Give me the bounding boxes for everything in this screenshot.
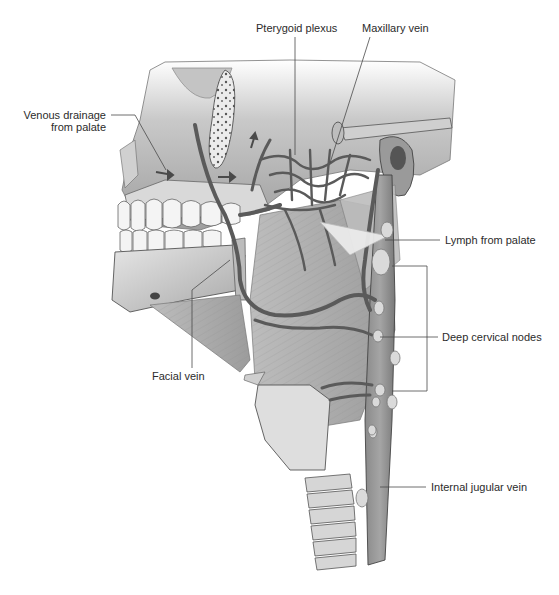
label-internal-jugular-vein: Internal jugular vein — [431, 481, 527, 493]
anatomy-drawing — [0, 0, 559, 595]
label-deep-cervical-nodes: Deep cervical nodes — [442, 331, 542, 343]
anatomy-illustration: Venous drainage from palate Pterygoid pl… — [0, 0, 559, 595]
label-pterygoid-plexus: Pterygoid plexus — [256, 22, 337, 34]
label-venous-drainage: Venous drainage from palate — [20, 109, 106, 133]
label-maxillary-vein: Maxillary vein — [362, 22, 429, 34]
label-lymph-from-palate: Lymph from palate — [445, 234, 536, 246]
trachea — [305, 474, 356, 570]
label-facial-vein: Facial vein — [152, 370, 205, 382]
label-venous-drainage-line1: Venous drainage — [20, 109, 106, 121]
label-venous-drainage-line2: from palate — [20, 121, 106, 133]
